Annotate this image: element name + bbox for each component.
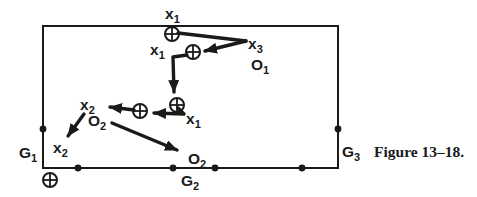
label-sub: 3 <box>354 151 360 163</box>
label-base: G <box>181 172 193 189</box>
label-sub: 3 <box>257 43 263 55</box>
label-base: O <box>188 150 200 167</box>
boundary-point-dot <box>212 165 219 172</box>
label-sub: 2 <box>193 180 199 192</box>
label-sub: 1 <box>174 13 180 25</box>
label-sub: 1 <box>263 64 269 76</box>
label-base: G <box>342 143 354 160</box>
label-g3: G3 <box>342 143 360 163</box>
label-sub: 1 <box>31 152 37 164</box>
boundary-point-dot <box>40 126 47 133</box>
label-base: O <box>88 112 100 129</box>
label-sub: 2 <box>62 147 68 159</box>
arrow-to-x2upper <box>110 107 134 110</box>
label-x2-lower: x2 <box>53 139 68 159</box>
label-sub: 1 <box>159 49 165 61</box>
arrow-x1left-down <box>173 55 187 92</box>
arrow-x3-to-x1left <box>205 41 246 51</box>
label-sub: 2 <box>200 158 206 170</box>
label-base: O <box>251 56 263 73</box>
label-x1-mid: x1 <box>186 110 201 130</box>
figure-13-18-diagram: x1 x3 x1 O1 x2 x1 O2 x2 O2 G1 G2 G3 Figu… <box>0 0 477 197</box>
label-x1-top: x1 <box>165 5 180 25</box>
label-base: G <box>19 144 31 161</box>
circle-plus-icon <box>186 45 200 59</box>
figure-caption: Figure 13–18. <box>374 143 464 160</box>
label-sub: 1 <box>195 118 201 130</box>
label-g2: G2 <box>181 172 199 192</box>
label-o2-upper: O2 <box>88 112 106 132</box>
boundary-point-dot <box>299 165 306 172</box>
arrow-x1mid-to-left <box>154 108 184 114</box>
figure-13-18: x1 x3 x1 O1 x2 x1 O2 x2 O2 G1 G2 G3 Figu… <box>0 0 477 197</box>
label-o2-lower: O2 <box>188 150 206 170</box>
label-sub: 2 <box>100 120 106 132</box>
label-x1-left: x1 <box>150 41 165 61</box>
arrow-x1top-to-x3 <box>178 33 246 41</box>
arrow-o2-to-o2 <box>112 123 177 150</box>
boundary-point-dot <box>75 165 82 172</box>
arrow-x2-down-left <box>68 114 84 136</box>
boundary-point-dot <box>170 165 177 172</box>
boundary-point-dot <box>335 126 342 133</box>
label-g1: G1 <box>19 144 37 164</box>
label-o1: O1 <box>251 56 269 76</box>
label-x3: x3 <box>248 35 263 55</box>
circle-plus-icon <box>43 173 57 187</box>
